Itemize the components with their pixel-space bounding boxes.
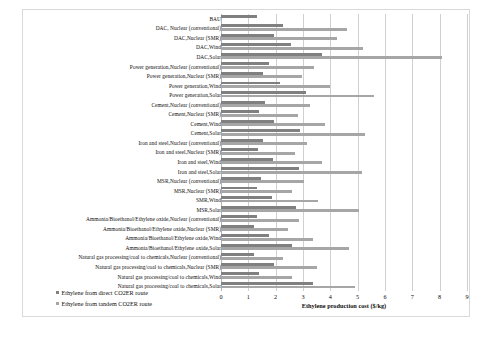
bar-tandem	[221, 66, 314, 69]
bar-tandem	[221, 161, 322, 164]
bar-direct	[221, 110, 259, 113]
chart-row: Iron and steel,Wind	[23, 157, 471, 167]
x-tick-label: 9	[465, 293, 468, 300]
bar-tandem	[221, 209, 359, 212]
bar-tandem	[221, 56, 442, 59]
chart-row: DAC,Wind	[23, 43, 471, 53]
category-label: Iron and steel,Solar	[178, 169, 221, 175]
bar-direct	[221, 263, 274, 266]
bar-tandem	[221, 75, 302, 78]
bar-tandem	[221, 276, 292, 279]
bar-direct	[221, 272, 259, 275]
bar-direct	[221, 282, 313, 285]
chart-legend: Ethylene from direct CO2ER routeEthylene…	[56, 287, 246, 309]
legend-label: Ethylene from direct CO2ER route	[61, 289, 148, 296]
category-label: Iron and steel,Nuclear (conventional)	[138, 140, 221, 146]
x-tick-label: 7	[411, 293, 414, 300]
bar-group	[221, 186, 467, 196]
category-label: Natural gas processing/coal to chemicals…	[95, 264, 221, 270]
bar-tandem	[221, 219, 299, 222]
x-tick-label: 2	[274, 293, 277, 300]
bar-group	[221, 52, 467, 62]
category-label: MSR,Nuclear (SMR)	[174, 188, 221, 194]
x-tick-label: 5	[356, 293, 359, 300]
bar-group	[221, 24, 467, 34]
bar-tandem	[221, 95, 374, 98]
x-tick-label: 3	[301, 293, 304, 300]
bar-group	[221, 100, 467, 110]
bar-direct	[221, 158, 273, 161]
chart-row: DAC, Nuclear (conventional)	[23, 24, 471, 34]
bar-group	[221, 234, 467, 244]
category-label: Cement,Nuclear (SMR)	[168, 111, 221, 117]
category-label: BAU	[209, 16, 221, 22]
bar-tandem	[221, 200, 318, 203]
category-label: Ammonia/Bioethanol/Ethylene oxide,Nuclea…	[86, 216, 221, 222]
bar-direct	[221, 253, 254, 256]
legend-item-tandem[interactable]: Ethylene from tandem CO2ER route	[56, 298, 246, 309]
x-axis-title: Ethylene production cost ($/kg)	[221, 302, 467, 309]
category-label: Natural gas processing/coal to chemicals…	[78, 254, 221, 260]
category-label: Power generation,Solar	[169, 92, 221, 98]
category-label: Power generation,Wind	[169, 83, 221, 89]
chart-row: Cement,Nuclear (conventional)	[23, 100, 471, 110]
bar-direct	[221, 139, 263, 142]
x-tick-label: 6	[383, 293, 386, 300]
bar-tandem	[221, 180, 304, 183]
legend-label: Ethylene from tandem CO2ER route	[61, 300, 152, 307]
chart-row: Natural gas processing/coal to chemicals…	[23, 253, 471, 263]
bar-tandem	[221, 142, 307, 145]
bar-tandem	[221, 85, 330, 88]
bar-tandem	[221, 238, 313, 241]
bar-direct	[221, 43, 291, 46]
figure-root: BAUDAC, Nuclear (conventional)DAC,Nuclea…	[0, 0, 479, 342]
chart-row: Ammonia/Bioethanol/Ethylene oxide,Nuclea…	[23, 214, 471, 224]
bar-tandem	[221, 190, 292, 193]
chart-row: Iron and steel,Nuclear (conventional)	[23, 138, 471, 148]
chart-row: Iron and steel,Nuclear (SMR)	[23, 148, 471, 158]
bar-group	[221, 205, 467, 215]
bar-group	[221, 119, 467, 129]
bar-group	[221, 62, 467, 72]
bar-group	[221, 272, 467, 282]
bar-direct	[221, 101, 265, 104]
bar-tandem	[221, 257, 283, 260]
category-label: Iron and steel,Wind	[178, 159, 221, 165]
category-label: DAC, Nuclear (conventional)	[156, 25, 221, 31]
bar-tandem	[221, 37, 337, 40]
chart-row: BAU	[23, 14, 471, 24]
bar-group	[221, 129, 467, 139]
chart-row: DAC,Solar	[23, 52, 471, 62]
category-label: Power generation,Nuclear (SMR)	[147, 73, 221, 79]
category-label: Ammonia/Bioethanol/Ethylene oxide,Nuclea…	[103, 226, 221, 232]
chart-row: Ammonia/Bioethanol/Ethylene oxide,Nuclea…	[23, 224, 471, 234]
category-label: DAC,Nuclear (SMR)	[174, 35, 221, 41]
legend-item-direct[interactable]: Ethylene from direct CO2ER route	[56, 287, 246, 298]
bar-tandem	[221, 152, 295, 155]
bar-group	[221, 14, 467, 24]
bar-direct	[221, 120, 274, 123]
bar-direct	[221, 244, 292, 247]
bar-group	[221, 43, 467, 53]
chart-row: Power generation,Nuclear (SMR)	[23, 71, 471, 81]
bar-tandem	[221, 247, 349, 250]
bar-group	[221, 148, 467, 158]
chart-rows: BAUDAC, Nuclear (conventional)DAC,Nuclea…	[23, 14, 471, 291]
category-label: DAC,Solar	[196, 54, 221, 60]
bar-tandem	[221, 114, 298, 117]
bar-group	[221, 214, 467, 224]
chart-row: MSR,Solar	[23, 205, 471, 215]
bar-direct	[221, 129, 300, 132]
bar-group	[221, 157, 467, 167]
chart-row: Natural gas processing/coal to chemicals…	[23, 272, 471, 282]
bar-direct	[221, 34, 274, 37]
bar-direct	[221, 53, 322, 56]
bar-direct	[221, 206, 296, 209]
chart-row: Iron and steel,Solar	[23, 167, 471, 177]
bar-group	[221, 81, 467, 91]
bar-direct	[221, 234, 269, 237]
bar-tandem	[221, 266, 317, 269]
bar-tandem	[221, 123, 325, 126]
category-label: SMR,Wind	[196, 197, 221, 203]
chart-row: Natural gas processing/coal to chemicals…	[23, 262, 471, 272]
